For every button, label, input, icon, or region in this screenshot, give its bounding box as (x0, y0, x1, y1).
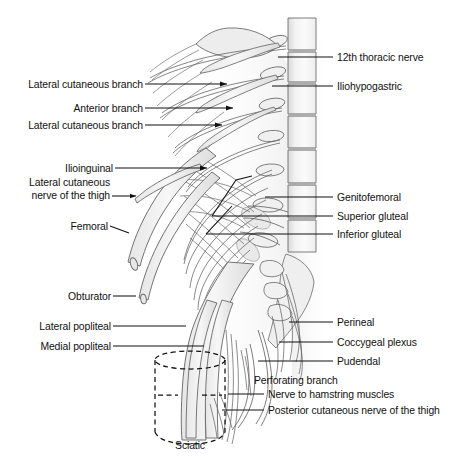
label-anterior-branch: Anterior branch (0, 103, 143, 116)
label-superior-gluteal: Superior gluteal (337, 211, 408, 224)
label-femoral: Femoral (0, 221, 108, 234)
label-ilioinguinal: Ilioinguinal (0, 163, 113, 176)
label-nerve-to-hamstring-muscles: Nerve to hamstring muscles (268, 389, 394, 402)
label-genitofemoral: Genitofemoral (337, 192, 401, 205)
label-lateral-popliteal: Lateral popliteal (0, 321, 111, 334)
perforating-branch-fibers (241, 350, 251, 396)
label-sciatic: Sciatic (155, 440, 225, 453)
label-medial-popliteal: Medial popliteal (0, 341, 111, 354)
label-obturator: Obturator (0, 291, 111, 304)
label-lateral-cutaneous-branch-2: Lateral cutaneous branch (0, 120, 143, 133)
label-lateral-cutaneous-nerve-of-the-thigh: Lateral cutaneous nerve of the thigh (0, 177, 110, 202)
label-inferior-gluteal: Inferior gluteal (337, 229, 401, 242)
label-perforating-branch: Perforating branch (254, 375, 338, 388)
label-coccygeal-plexus: Coccygeal plexus (337, 337, 417, 350)
label-iliohypogastric: Iliohypogastric (337, 81, 402, 94)
label-pudendal: Pudendal (337, 356, 380, 369)
vertebral-column (288, 18, 316, 252)
anatomy-figure-page: Lateral cutaneous branch Anterior branch… (0, 0, 455, 459)
label-posterior-cutaneous-nerve-of-the-thigh: Posterior cutaneous nerve of the thigh (268, 405, 440, 418)
label-lateral-cutaneous-branch-1: Lateral cutaneous branch (0, 79, 143, 92)
label-12th-thoracic-nerve: 12th thoracic nerve (337, 52, 423, 65)
label-perineal: Perineal (337, 317, 374, 330)
